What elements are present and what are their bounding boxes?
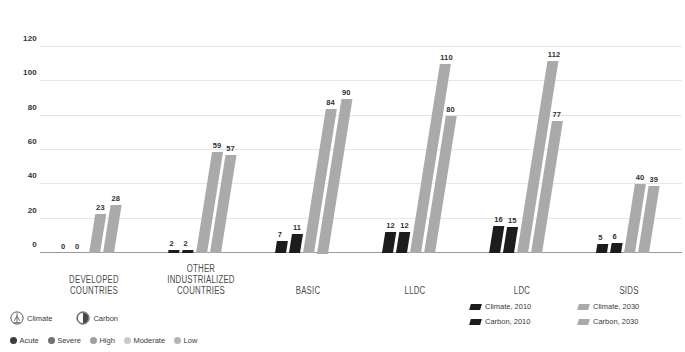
bar-slot: 12 [395, 47, 408, 253]
bar-slot: 28 [102, 47, 115, 253]
bar-slot: 59 [195, 47, 208, 253]
bar-slot: 15 [502, 47, 515, 253]
bar-group: 161511277LDC [468, 0, 575, 300]
series-legend: Climate, 2010Climate, 2030Carbon, 2010Ca… [470, 300, 685, 330]
severity-dot [124, 337, 131, 344]
bar-value-label: 6 [613, 232, 617, 241]
bar-slot: 57 [209, 47, 222, 253]
bar-slot: 7 [274, 47, 287, 253]
legend-label: Climate, 2010 [485, 302, 531, 311]
legend-item[interactable]: Climate, 2010 [470, 302, 531, 311]
bar-slot: 16 [488, 47, 501, 253]
legend-swatch [469, 304, 482, 310]
severity-dot [174, 337, 181, 344]
legend-item[interactable]: Carbon, 2030 [578, 317, 638, 326]
bar-slot: 11 [288, 47, 301, 253]
climate-icon [10, 311, 24, 325]
bar-slot: 77 [530, 47, 543, 253]
severity-legend-item[interactable]: Acute [10, 336, 39, 345]
bar [638, 186, 660, 253]
bar-slot: 84 [302, 47, 315, 253]
carbon-icon [76, 311, 90, 325]
icon-legend-item[interactable]: Climate [10, 311, 52, 325]
legend-swatch [469, 319, 482, 325]
y-axis-tick-label: 80 [28, 102, 37, 111]
icon-legend-label: Climate [27, 314, 52, 323]
severity-legend-item[interactable]: Moderate [124, 336, 165, 345]
severity-dot [90, 337, 97, 344]
bar-slot: 12 [381, 47, 394, 253]
bar-value-label: 77 [552, 110, 561, 119]
x-axis-category-label: LLDC [368, 285, 462, 296]
bar-slot: 110 [409, 47, 422, 253]
bar-slot: 40 [623, 47, 636, 253]
legend-item[interactable]: Carbon, 2010 [470, 317, 530, 326]
bar-slot: 23 [88, 47, 101, 253]
severity-label: Acute [20, 336, 39, 345]
bar-slot: 6 [609, 47, 622, 253]
bar-value-label: 39 [649, 175, 658, 184]
bar-value-label: 2 [170, 239, 174, 248]
bar-slot: 39 [637, 47, 650, 253]
bar-group: 121211080LLDC [361, 0, 468, 300]
bar-slot: 0 [74, 47, 87, 253]
plot-area: 002328DEVELOPED COUNTRIES225957OTHER IND… [40, 0, 682, 300]
bar-slot: 80 [423, 47, 436, 253]
severity-legend-item[interactable]: High [90, 336, 115, 345]
severity-dot [10, 337, 17, 344]
legend-label: Climate, 2030 [593, 302, 639, 311]
bar-slot: 112 [516, 47, 529, 253]
bar [210, 155, 236, 253]
bar-value-label: 90 [342, 88, 351, 97]
legend-item[interactable]: Climate, 2030 [578, 302, 639, 311]
bar-slot: 2 [181, 47, 194, 253]
y-axis-tick-label: 40 [28, 171, 37, 180]
bar-slot: 0 [60, 47, 73, 253]
severity-label: Low [184, 336, 198, 345]
y-axis-tick-label: 120 [23, 34, 37, 43]
y-axis-tick-label: 20 [28, 205, 37, 214]
icon-legend-item[interactable]: Carbon [76, 311, 118, 325]
severity-legend-item[interactable]: Low [174, 336, 197, 345]
severity-label: High [99, 336, 114, 345]
bar [596, 244, 608, 253]
bar [168, 250, 180, 253]
legend-swatch [577, 304, 590, 310]
bar-chart: 020406080100120 002328DEVELOPED COUNTRIE… [0, 0, 685, 300]
y-axis-tick-label: 60 [28, 137, 37, 146]
bar-group: 225957OTHER INDUSTRIALIZED COUNTRIES [147, 0, 254, 300]
legend-swatch [577, 319, 590, 325]
x-axis-category-label: DEVELOPED COUNTRIES [47, 274, 141, 296]
bar-value-label: 11 [293, 223, 301, 232]
x-axis-category-label: OTHER INDUSTRIALIZED COUNTRIES [154, 263, 248, 296]
y-axis-tick-label: 100 [23, 68, 37, 77]
bar [103, 205, 122, 253]
bar-group: 564039SIDS [575, 0, 682, 300]
bar-value-label: 0 [75, 242, 79, 251]
bar [275, 241, 288, 253]
icon-legend: ClimateCarbon [10, 308, 270, 328]
bar-value-label: 112 [548, 50, 560, 59]
bar-value-label: 12 [400, 221, 409, 230]
bar [424, 116, 457, 253]
y-axis-tick-label: 0 [32, 240, 37, 249]
bar [610, 243, 623, 253]
bar-value-label: 5 [598, 233, 602, 242]
bar-group: 7118490BASIC [254, 0, 361, 300]
severity-legend: AcuteSevereHighModerateLow [10, 332, 310, 348]
bar-value-label: 28 [111, 194, 120, 203]
bar-slot: 90 [316, 47, 329, 253]
severity-legend-item[interactable]: Severe [48, 336, 81, 345]
bar [531, 121, 563, 253]
bar [182, 250, 194, 253]
severity-label: Severe [57, 336, 81, 345]
bar-slot: 2 [167, 47, 180, 253]
y-axis: 020406080100120 [0, 0, 40, 300]
bar-value-label: 57 [226, 144, 235, 153]
bar-slot: 5 [595, 47, 608, 253]
bar [289, 234, 303, 253]
bar-value-label: 12 [386, 221, 395, 230]
bar-value-label: 0 [61, 242, 65, 251]
severity-dot [48, 337, 55, 344]
bar-value-label: 110 [440, 53, 452, 62]
